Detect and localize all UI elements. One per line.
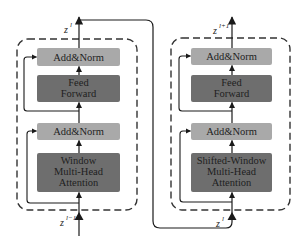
swin-transformer-blocks-diagram: Add&Norm Feed Forward Add&Norm Window Mu…	[0, 0, 307, 243]
block-right: Add&Norm Feed Forward Add&Norm Shifted-W…	[171, 17, 290, 229]
left-input-label-sup: l−1	[66, 214, 76, 222]
left-wmsa-label-3: Attention	[59, 177, 99, 188]
right-swmsa-label-3: Attention	[212, 177, 252, 188]
right-feed-forward-label-2: Forward	[214, 88, 250, 99]
left-input-label: z	[59, 217, 64, 228]
right-input-label-sup: l	[222, 215, 224, 223]
right-output-label-sup: l+1	[219, 22, 229, 30]
right-add-norm-top-label: Add&Norm	[206, 51, 257, 62]
left-add-norm-top-label: Add&Norm	[53, 52, 104, 63]
right-swmsa-label-2: Multi-Head	[207, 166, 257, 177]
left-output-label-sup: l	[70, 21, 72, 29]
left-feed-forward-label-2: Forward	[61, 88, 97, 99]
right-output-label: z	[212, 25, 217, 36]
left-wmsa-label-1: Window	[61, 155, 97, 166]
left-wmsa-label-2: Multi-Head	[54, 166, 104, 177]
right-input-arrowhead-icon	[228, 212, 237, 220]
left-output-label: z	[63, 24, 68, 35]
right-swmsa-label-1: Shifted-Window	[197, 155, 267, 166]
right-feed-forward-label-1: Feed	[221, 77, 242, 88]
left-add-norm-bottom-label: Add&Norm	[53, 126, 104, 137]
right-input-label: z	[215, 218, 220, 229]
left-feed-forward-label-1: Feed	[68, 77, 89, 88]
right-add-norm-bottom-label: Add&Norm	[206, 126, 257, 137]
block-left: Add&Norm Feed Forward Add&Norm Window Mu…	[17, 17, 137, 236]
